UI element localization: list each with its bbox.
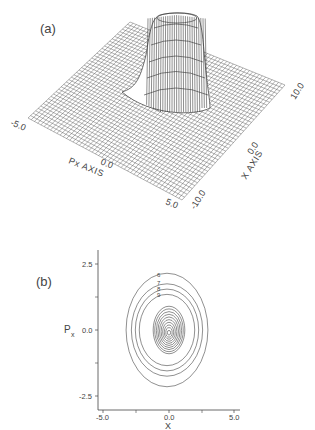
tick-x-min: -10.0 [188,188,207,211]
y-tick-label-bot: -2.5 [79,392,92,401]
axis-label-px: Px AXIS [67,156,105,179]
x-axis-label: X [165,421,171,430]
x-tick-label-right: 5.0 [229,413,239,422]
y-tick-label-mid: 0.0 [82,326,92,335]
panel-label-a: (a) [40,21,56,36]
x-tick-label-left: -5.0 [96,413,109,422]
tick-px-max: 5.0 [164,197,179,211]
y-axis-label-subscript: x [71,331,75,338]
panel-label-b: (b) [36,274,52,289]
contour-plot: (b) 2.5 0.0 -2.5 -5.0 0.0 5.0 X P x 6 7 … [0,215,315,430]
contour-lines [126,273,208,387]
y-tick-label-top: 2.5 [82,260,92,269]
surface-plot-panel: (a) -5.0 0.0 5.0 Px AXIS -10.0 0.0 10.0 … [0,0,315,215]
y-axis-label: P [64,324,71,335]
surface-plot: (a) -5.0 0.0 5.0 Px AXIS -10.0 0.0 10.0 … [0,0,315,215]
contour-label-6: 6 [157,272,161,278]
tick-px-min: -5.0 [9,118,27,133]
contour-plot-panel: (b) 2.5 0.0 -2.5 -5.0 0.0 5.0 X P x 6 7 … [0,215,315,430]
tick-x-max: 10.0 [288,81,306,101]
